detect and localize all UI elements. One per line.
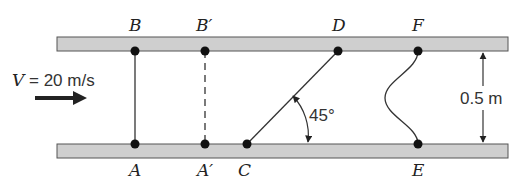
point-b [131,47,140,56]
point-f [414,47,423,56]
angle-label: 45° [309,106,335,125]
point-a-prime [201,140,210,149]
velocity-label: V = 20 m/s [12,70,95,90]
point-b-prime [201,47,210,56]
gap-label: 0.5 m [460,89,503,108]
bottom-plate [57,144,508,158]
label-a: A [127,160,141,180]
flow-arrow-icon [35,91,87,105]
angle-arc [293,96,308,142]
label-b-prime: B′ [195,15,212,35]
line-cd [247,51,338,144]
label-f: F [411,15,425,35]
label-d: D [331,15,346,35]
label-a-prime: A′ [195,160,213,180]
label-c: C [238,160,251,180]
point-c [243,140,252,149]
point-d [334,47,343,56]
point-e [414,140,423,149]
point-a [131,140,140,149]
top-plate [57,37,508,51]
flow-diagram: 45° 0.5 m V = 20 m/s B B′ D F A A′ C E [0,0,520,183]
curve-ef [385,51,418,144]
label-b: B [128,15,142,35]
label-e: E [411,160,425,180]
